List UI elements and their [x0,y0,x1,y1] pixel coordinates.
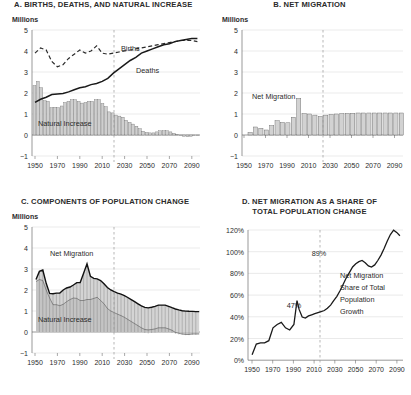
panel-b-net-migration-label: Net Migration [252,92,295,101]
svg-text:2070: 2070 [162,359,178,366]
svg-text:60%: 60% [230,292,244,299]
panel-b-net-migration: B. NET MIGRATION Millions 5 4 3 [208,0,411,197]
svg-text:4: 4 [24,48,28,55]
panel-a-natural-increase-label: Natural Increase [38,119,92,128]
svg-text:2010: 2010 [306,366,322,373]
svg-text:0: 0 [24,329,28,336]
panel-c-svg: Millions 5 4 3 2 1 0 [0,207,210,382]
svg-text:1970: 1970 [258,162,274,169]
panel-a-title: A. BIRTHS, DEATHS, AND NATURAL INCREASE [0,0,210,10]
panel-c-x-ticks [35,353,192,356]
svg-text:2070: 2070 [162,162,178,169]
panel-a-births-line [35,40,197,66]
svg-text:80%: 80% [230,270,244,277]
panel-d-series-label-line1: Net Migration [340,271,383,280]
panel-a-deaths-label: Deaths [136,66,159,75]
svg-text:2050: 2050 [139,162,155,169]
svg-text:5: 5 [24,27,28,34]
svg-text:2: 2 [234,90,238,97]
svg-text:2090: 2090 [184,359,200,366]
svg-text:2050: 2050 [348,366,364,373]
svg-text:1970: 1970 [50,359,66,366]
svg-text:1: 1 [24,308,28,315]
svg-text:2010: 2010 [301,162,317,169]
panel-c-natural-increase-label: Natural Increase [38,315,92,324]
panel-c-gridlines [32,227,200,353]
panel-a-births-label: Births [121,44,140,53]
panel-b-plot: Millions 5 4 3 2 1 0 [208,10,411,182]
svg-text:2050: 2050 [139,359,155,366]
figure-container: A. BIRTHS, DEATHS, AND NATURAL INCREASE … [0,0,411,395]
svg-text:0%: 0% [234,357,244,364]
panel-a-natural-increase-bars [33,81,199,136]
svg-text:1950: 1950 [27,359,43,366]
svg-text:2090: 2090 [387,162,403,169]
svg-text:1990: 1990 [72,162,88,169]
panel-b-bars [248,98,403,135]
panel-d-y-ticks: 120% 100% 80% 60% 40% 20% 0% [226,227,244,364]
panel-d-series-label-line4: Growth [340,307,364,316]
svg-text:3: 3 [24,266,28,273]
svg-text:−1: −1 [230,153,238,160]
panel-b-x-ticks [244,135,395,138]
svg-text:2010: 2010 [94,359,110,366]
svg-text:2090: 2090 [389,366,405,373]
svg-text:2030: 2030 [327,366,343,373]
panel-a-x-ticks [35,156,192,159]
svg-text:2030: 2030 [117,359,133,366]
svg-text:1950: 1950 [27,162,43,169]
svg-text:120%: 120% [226,227,244,234]
svg-text:0: 0 [234,132,238,139]
panel-d-series-label-line3: Population [340,295,375,304]
panel-a-y-ticks: 5 4 3 2 1 0 −1 [20,27,28,160]
svg-text:2030: 2030 [322,162,338,169]
svg-text:4: 4 [24,245,28,252]
svg-text:2050: 2050 [344,162,360,169]
panel-b-y-ticks: 5 4 3 2 1 0 −1 [230,27,238,160]
panel-a-units-label: Millions [12,16,38,23]
svg-text:2070: 2070 [368,366,384,373]
svg-text:5: 5 [234,27,238,34]
panel-d-series-label: Net Migration Share of Total Population … [340,271,385,316]
svg-text:1950: 1950 [244,366,260,373]
panel-d-plot: 120% 100% 80% 60% 40% 20% 0% 89% 47% Net… [208,216,411,386]
panel-d-x-ticks [252,360,397,363]
svg-text:2: 2 [24,90,28,97]
svg-text:2090: 2090 [184,162,200,169]
svg-text:1950: 1950 [236,162,252,169]
panel-d-value-47-label: 47% [287,301,302,310]
svg-text:0: 0 [24,132,28,139]
panel-a-x-tick-labels: 1950 1970 1990 2010 2030 2050 2070 2090 [27,162,199,169]
panel-c-title: C. COMPONENTS OF POPULATION CHANGE [0,197,210,207]
svg-text:2010: 2010 [94,162,110,169]
panel-a-gridlines [32,30,200,156]
svg-text:3: 3 [234,69,238,76]
svg-text:1: 1 [24,111,28,118]
panel-c-net-migration-label: Net Migration [50,249,93,258]
panel-d-net-migration-share: D. NET MIGRATION AS A SHARE OF TOTAL POP… [208,197,411,395]
panel-c-y-ticks: 5 4 3 2 1 0 −1 [20,224,28,357]
panel-b-title: B. NET MIGRATION [208,0,411,10]
panel-d-title-line2: TOTAL POPULATION CHANGE [208,207,411,217]
panel-d-svg: 120% 100% 80% 60% 40% 20% 0% 89% 47% Net… [208,216,411,386]
svg-text:5: 5 [24,224,28,231]
svg-text:2030: 2030 [117,162,133,169]
svg-text:1: 1 [234,111,238,118]
svg-text:1990: 1990 [72,359,88,366]
svg-text:1990: 1990 [279,162,295,169]
svg-text:100%: 100% [226,249,244,256]
svg-text:2070: 2070 [365,162,381,169]
panel-c-units-label: Millions [12,213,38,220]
panel-d-series-label-line2: Share of Total [340,283,385,292]
svg-text:1990: 1990 [286,366,302,373]
panel-d-x-tick-labels: 1950 1970 1990 2010 2030 2050 2070 2090 [244,366,405,373]
svg-text:4: 4 [234,48,238,55]
svg-text:40%: 40% [230,314,244,321]
svg-text:2: 2 [24,287,28,294]
svg-text:1970: 1970 [50,162,66,169]
svg-text:1970: 1970 [265,366,281,373]
panel-a-svg: Millions 5 4 3 2 [0,10,210,182]
panel-d-value-89-label: 89% [312,249,327,258]
panel-c-components-of-population-change: C. COMPONENTS OF POPULATION CHANGE Milli… [0,197,210,395]
panel-b-svg: Millions 5 4 3 2 1 0 [208,10,411,182]
